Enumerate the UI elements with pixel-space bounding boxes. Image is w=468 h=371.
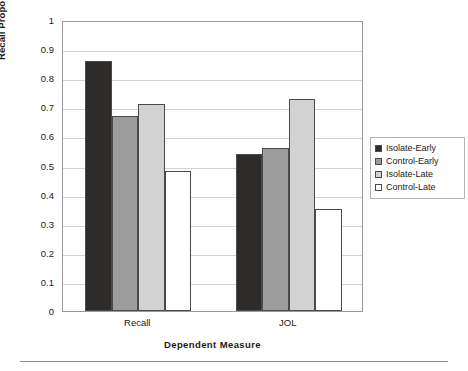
- bar-isolate-late-jol: [289, 99, 316, 311]
- bar-control-late-recall: [165, 171, 192, 311]
- bar-control-late-jol: [315, 209, 342, 311]
- legend-item-label: Control-Early: [386, 157, 439, 166]
- legend-item-label: Isolate-Early: [386, 144, 436, 153]
- legend-swatch-icon: [375, 184, 382, 191]
- x-axis-tick-label: JOL: [243, 318, 333, 328]
- y-axis-tick-label: 0.9: [14, 45, 54, 55]
- plot-area: [62, 21, 363, 312]
- legend-item: Isolate-Late: [375, 168, 461, 181]
- legend-item-label: Control-Late: [386, 183, 436, 192]
- y-axis-tick-label: 0.3: [14, 220, 54, 230]
- legend-item: Isolate-Early: [375, 142, 461, 155]
- legend-swatch-icon: [375, 171, 382, 178]
- legend-item: Control-Early: [375, 155, 461, 168]
- y-axis-tick-label: 0.6: [14, 132, 54, 142]
- chart-figure: Recall Proportion/JOL Number 10.90.80.70…: [0, 0, 468, 371]
- bar-isolate-early-jol: [236, 154, 263, 311]
- y-axis-tick-label: 0.8: [14, 74, 54, 84]
- bar-control-early-jol: [262, 148, 289, 311]
- legend-item: Control-Late: [375, 181, 461, 194]
- x-axis-tick-label: Recall: [92, 318, 182, 328]
- y-axis-tick-label: 0: [14, 307, 54, 317]
- y-axis-tick-label: 0.5: [14, 162, 54, 172]
- legend-swatch-icon: [375, 158, 382, 165]
- bar-control-early-recall: [112, 116, 139, 311]
- y-axis-tick-label: 0.7: [14, 103, 54, 113]
- y-axis-tick-label: 0.2: [14, 249, 54, 259]
- bars-layer: [63, 22, 362, 311]
- chart-legend: Isolate-EarlyControl-EarlyIsolate-LateCo…: [370, 137, 465, 199]
- footer-divider: [20, 361, 448, 362]
- x-axis-title: Dependent Measure: [62, 339, 363, 350]
- legend-item-label: Isolate-Late: [386, 170, 433, 179]
- legend-swatch-icon: [375, 145, 382, 152]
- bar-isolate-late-recall: [138, 104, 165, 311]
- bar-isolate-early-recall: [85, 61, 112, 311]
- y-axis-title: Recall Proportion/JOL Number: [0, 0, 7, 60]
- y-axis-tick-label: 1: [14, 16, 54, 26]
- y-axis-tick-label: 0.4: [14, 191, 54, 201]
- y-axis-tick-label: 0.1: [14, 278, 54, 288]
